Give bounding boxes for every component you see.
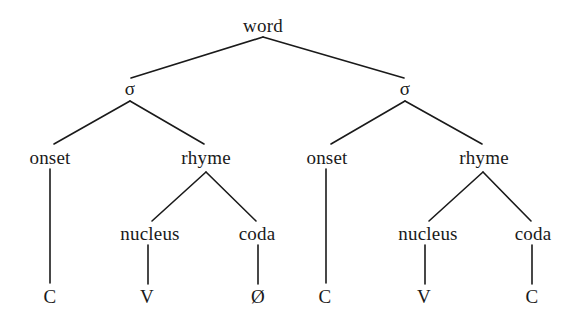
tree-node-term-null: Ø [251,287,265,306]
tree-node-rhyme2: rhyme [459,148,509,167]
tree-node-nucleus2: nucleus [398,224,457,243]
tree-edge [130,101,204,144]
tree-node-term-c3: C [526,287,539,306]
tree-edge [263,37,404,78]
tree-edge [54,101,130,144]
tree-edge [131,37,263,78]
tree-node-nucleus1: nucleus [120,224,179,243]
tree-node-term-v1: V [140,287,154,306]
tree-node-coda2: coda [515,224,552,243]
tree-edge [152,172,206,221]
tree-node-rhyme1: rhyme [181,148,231,167]
tree-edge [405,101,482,144]
tree-node-sigma2: σ [400,79,410,98]
tree-edge [206,172,256,221]
tree-node-term-c2: C [319,287,332,306]
tree-edge [429,172,483,221]
syllable-tree-diagram: wordσσonsetrhymeonsetrhymenucleuscodanuc… [0,0,576,325]
tree-node-coda1: coda [239,224,276,243]
tree-node-term-v2: V [417,287,431,306]
tree-node-word: word [243,16,283,35]
tree-node-sigma1: σ [125,79,135,98]
tree-edge [331,101,405,144]
tree-node-term-c1: C [44,287,57,306]
tree-node-onset1: onset [29,148,70,167]
tree-node-onset2: onset [306,148,347,167]
tree-edge [483,172,531,221]
